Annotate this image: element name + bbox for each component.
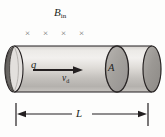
field-mark-x-3: × <box>61 29 66 38</box>
cylinder-left-opening <box>5 46 23 92</box>
area-label: A <box>108 63 114 74</box>
charge-label: q <box>31 60 36 71</box>
figure-canvas <box>0 0 165 137</box>
dimension-left-arrowhead <box>17 111 26 117</box>
magnetic-field-symbol: B <box>54 6 61 18</box>
length-label: L <box>76 108 82 119</box>
cylinder-right-cap <box>143 46 161 92</box>
field-mark-x-2: × <box>43 29 48 38</box>
magnetic-field-subscript: in <box>61 12 66 20</box>
field-mark-x-1: × <box>25 29 30 38</box>
physics-figure: × × × × Bin q vd A L <box>0 0 165 137</box>
field-mark-x-4: × <box>79 29 84 38</box>
drift-velocity-subscript: d <box>66 78 69 84</box>
dimension-right-arrowhead <box>138 111 147 117</box>
magnetic-field-label: Bin <box>54 7 66 18</box>
drift-velocity-label: vd <box>62 74 69 84</box>
